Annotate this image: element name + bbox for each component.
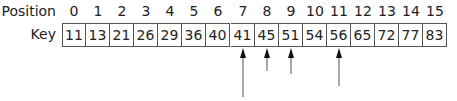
up-arrow-icon [264, 48, 270, 71]
up-arrow-icon [240, 48, 246, 97]
pointer-arrows [0, 0, 457, 101]
up-arrow-icon [288, 48, 294, 74]
up-arrow-icon [336, 48, 342, 86]
